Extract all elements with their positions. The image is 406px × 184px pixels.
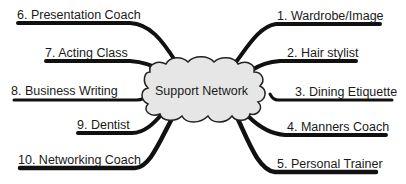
branch-label-8: 8. Business Writing <box>11 84 118 98</box>
branch-label-5: 5. Personal Trainer <box>277 157 383 171</box>
branch-label-3: 3. Dining Etiquette <box>295 85 397 99</box>
branch-label-7: 7. Acting Class <box>45 46 128 60</box>
branch-line-7 <box>46 61 166 72</box>
branch-label-10: 10. Networking Coach <box>18 153 141 167</box>
branch-label-1: 1. Wardrobe/Image <box>277 9 384 23</box>
branch-label-2: 2. Hair stylist <box>287 46 359 60</box>
branch-label-6: 6. Presentation Coach <box>17 8 141 22</box>
branch-line-2 <box>252 61 356 70</box>
branch-label-9: 9. Dentist <box>77 118 130 132</box>
center-node-label: Support Network <box>155 84 248 98</box>
mind-map-diagram: Support Network 6. Presentation Coach 7.… <box>0 0 406 184</box>
branch-label-4: 4. Manners Coach <box>287 120 389 134</box>
